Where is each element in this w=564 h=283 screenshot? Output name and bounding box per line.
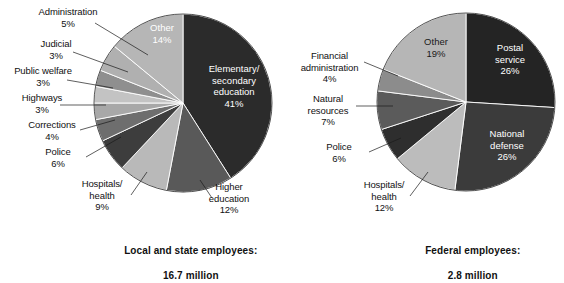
label-public-welfare: Public welfare 3% <box>0 65 86 88</box>
caption-local-and-state: Local and state employees: 16.7 million <box>60 232 310 283</box>
label-hospitals-health-left: Hospitals/ health 9% <box>66 178 138 213</box>
label-other-left: Other 14% <box>130 22 194 45</box>
label-administration: Administration 5% <box>20 6 116 29</box>
label-national-defense: National defense 26% <box>474 128 540 163</box>
label-hospitals-health-right: Hospitals/ health 12% <box>348 179 420 214</box>
label-postal-service: Postal service 26% <box>480 42 540 77</box>
label-highways: Highways 3% <box>7 92 77 115</box>
caption-federal-line1: Federal employees: <box>425 245 520 256</box>
label-corrections: Corrections 4% <box>12 119 92 142</box>
label-police-right: Police 6% <box>312 141 366 164</box>
caption-federal: Federal employees: 2.8 million <box>370 232 564 283</box>
label-natural-resources: Natural resources 7% <box>296 93 360 128</box>
pie-federal <box>377 13 555 191</box>
label-higher-education: Higher education 12% <box>196 181 262 216</box>
label-judicial: Judicial 3% <box>24 38 88 61</box>
label-other-right: Other 19% <box>408 36 464 59</box>
caption-federal-line2: 2.8 million <box>448 270 498 281</box>
label-elementary-secondary-education: Elementary/ secondary education 41% <box>196 63 272 109</box>
label-police-left: Police 6% <box>30 146 86 169</box>
caption-local-and-state-line2: 16.7 million <box>163 270 219 281</box>
caption-local-and-state-line1: Local and state employees: <box>124 245 257 256</box>
label-financial-administration: Financial administration 4% <box>287 50 372 85</box>
